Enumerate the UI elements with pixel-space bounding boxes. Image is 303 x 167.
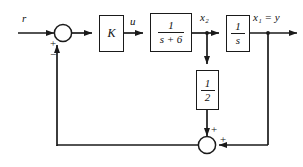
gain-k-label: K [107, 26, 115, 41]
half-gain-denominator: 2 [203, 91, 213, 103]
integrator-numerator: 1 [233, 21, 243, 33]
signal-label-u: u [130, 16, 136, 27]
integrator-fraction: 1 s [231, 21, 245, 46]
signal-label-r: r [22, 13, 26, 24]
feedback-summer-plus-sign-vertical: + [211, 124, 217, 135]
feedback-summer-plus-sign-horizontal: + [220, 134, 226, 145]
first-order-lag-block[interactable]: 1 s + 6 [150, 13, 192, 52]
integrator-block[interactable]: 1 s [226, 15, 250, 52]
gain-k-block[interactable]: K [99, 15, 124, 52]
signal-label-output: x₁ = y [253, 12, 280, 23]
signal-label-x2: x₂ [200, 12, 209, 23]
first-order-lag-fraction: 1 s + 6 [158, 20, 185, 45]
block-diagram: K 1 s + 6 1 s 1 2 r u x₂ x₁ = y + − + + [0, 0, 303, 167]
integrator-denominator: s [234, 34, 242, 46]
input-summing-junction [54, 24, 71, 41]
feedback-gain-half-block[interactable]: 1 2 [196, 70, 219, 110]
first-order-lag-numerator: 1 [166, 20, 176, 32]
half-gain-fraction: 1 2 [201, 78, 215, 103]
input-summer-minus-sign: − [50, 49, 56, 60]
feedback-summing-junction [198, 136, 215, 153]
first-order-lag-denominator: s + 6 [158, 33, 185, 45]
half-gain-numerator: 1 [203, 78, 213, 90]
